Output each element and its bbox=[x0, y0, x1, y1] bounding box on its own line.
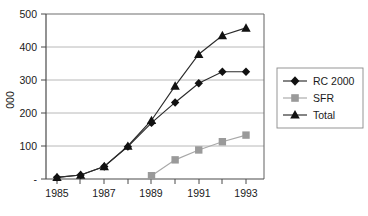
legend-label-sfr: SFR bbox=[313, 92, 334, 104]
line-chart: 500 400 300 200 100 - 000 1985 1987 1989… bbox=[0, 0, 368, 216]
x-axis-ticks bbox=[57, 179, 246, 184]
chart-canvas: 500 400 300 200 100 - 000 1985 1987 1989… bbox=[0, 0, 368, 216]
plot-area-background bbox=[46, 14, 264, 179]
y-axis-ticks bbox=[41, 14, 46, 179]
y-axis-title: 000 bbox=[4, 91, 16, 109]
x-tick-label-1987: 1987 bbox=[92, 187, 116, 199]
y-tick-label-100: 100 bbox=[19, 140, 37, 152]
data-point bbox=[195, 146, 202, 153]
chart-legend: RC 2000 SFR Total bbox=[277, 68, 363, 128]
y-tick-label-200: 200 bbox=[19, 107, 37, 119]
data-point bbox=[148, 172, 155, 179]
square-marker-icon bbox=[291, 94, 299, 102]
legend-label-rc-2000: RC 2000 bbox=[313, 75, 355, 87]
data-point bbox=[219, 138, 226, 145]
y-tick-label-300: 300 bbox=[19, 74, 37, 86]
y-tick-label-400: 400 bbox=[19, 41, 37, 53]
x-tick-label-1991: 1991 bbox=[187, 187, 211, 199]
x-tick-label-1993: 1993 bbox=[234, 187, 258, 199]
data-point bbox=[242, 131, 249, 138]
data-point bbox=[171, 156, 178, 163]
x-tick-label-1985: 1985 bbox=[45, 187, 69, 199]
y-tick-label-0: - bbox=[34, 173, 38, 185]
x-tick-label-1989: 1989 bbox=[139, 187, 163, 199]
y-tick-label-500: 500 bbox=[19, 8, 37, 20]
legend-label-total: Total bbox=[313, 109, 335, 121]
